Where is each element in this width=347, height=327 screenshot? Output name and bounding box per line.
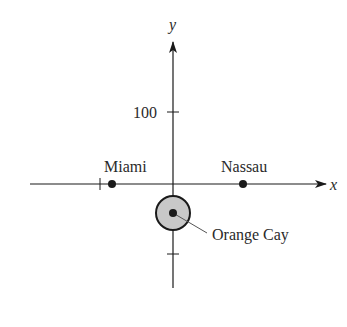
miami-label: Miami <box>104 158 147 175</box>
y-axis-label: y <box>167 16 177 34</box>
miami-point <box>108 180 116 188</box>
orange-cay-point <box>169 209 177 217</box>
nassau-label: Nassau <box>221 158 267 175</box>
orange-cay-label: Orange Cay <box>212 226 289 244</box>
diagram-canvas: y x 100 Miami Nassau Orange Cay <box>0 0 347 327</box>
x-axis-label: x <box>329 176 337 193</box>
y-tick-label-100: 100 <box>133 104 157 121</box>
nassau-point <box>239 180 247 188</box>
